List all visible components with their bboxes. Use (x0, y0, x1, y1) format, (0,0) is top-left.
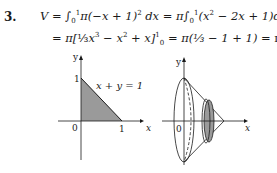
origin-label: 0 (72, 123, 78, 133)
y-tick-1: 1 (74, 74, 80, 84)
y-axis-label: y (175, 57, 182, 67)
x-arrow-icon (140, 119, 144, 123)
left-figure: y x 0 1 1 x + y = 1 (58, 52, 151, 160)
y-axis-label: y (72, 52, 79, 62)
x-tick-1: 1 (119, 124, 125, 134)
curve-label: x + y = 1 (96, 80, 143, 91)
origin-label: 0 (176, 124, 182, 134)
y-arrow-icon (182, 57, 186, 62)
x-axis-label: x (245, 123, 250, 133)
y-arrow-icon (79, 55, 83, 60)
x-axis-label: x (146, 123, 151, 133)
figures: y x 0 1 1 x + y = 1 y x 0 (0, 0, 277, 173)
cone-base-back (184, 78, 191, 162)
right-figure: y x 0 (162, 57, 250, 165)
